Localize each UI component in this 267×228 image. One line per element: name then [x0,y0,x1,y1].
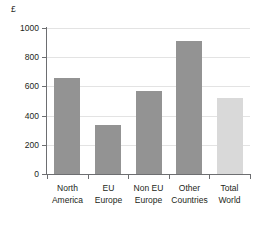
x-tick-mark [128,174,129,179]
y-tick-label: 200 [0,141,39,150]
bar [54,78,80,174]
y-tick-mark [42,116,47,117]
x-category-label-line2: World [209,194,250,206]
y-tick-label: 600 [0,82,39,91]
x-tick-mark [47,174,48,179]
x-category-label-line2: Europe [128,194,169,206]
y-tick-label: 1000 [0,24,39,33]
x-tick-mark [88,174,89,179]
x-tick-mark [169,174,170,179]
x-tick-mark [250,174,251,179]
bar [176,41,202,174]
x-category-label-line2: Europe [88,194,129,206]
bar [95,125,121,174]
x-axis-line [46,174,251,175]
gridline [47,57,250,58]
y-tick-mark [42,28,47,29]
x-category-label-line2: America [47,194,88,206]
x-category-label-line1: Non EU [128,182,169,194]
y-tick-label: 400 [0,112,39,121]
x-category-label-line1: North [47,182,88,194]
y-tick-label: 800 [0,53,39,62]
x-category-label: NorthAmerica [47,182,88,206]
x-category-label: OtherCountries [169,182,210,206]
bar-chart: £ 02004006008001000 NorthAmericaEUEurope… [0,0,267,228]
y-axis-unit-label: £ [11,4,16,14]
y-axis-line [46,27,47,175]
y-tick-label: 0 [0,170,39,179]
x-category-label: TotalWorld [209,182,250,206]
y-tick-mark [42,57,47,58]
x-category-label-line1: EU [88,182,129,194]
x-category-label: Non EUEurope [128,182,169,206]
x-category-label: EUEurope [88,182,129,206]
x-category-label-line1: Other [169,182,210,194]
bar [217,98,243,174]
y-tick-mark [42,86,47,87]
y-tick-mark [42,145,47,146]
x-tick-mark [209,174,210,179]
bar [136,91,162,174]
x-category-label-line1: Total [209,182,250,194]
gridline [47,28,250,29]
x-category-label-line2: Countries [169,194,210,206]
